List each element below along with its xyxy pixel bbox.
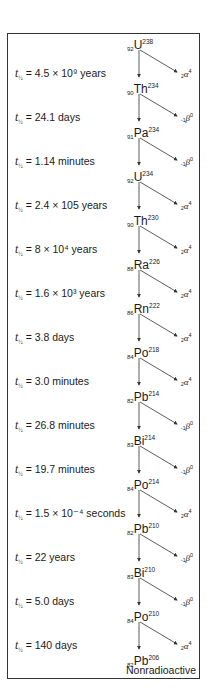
element-symbol: Pa: [134, 126, 149, 140]
emitted-particle: -1β0: [181, 418, 193, 433]
particle-mass: 0: [190, 552, 193, 558]
half-life-symbol: t½: [15, 463, 23, 475]
particle-mass: 0: [190, 420, 193, 426]
emitted-particle: 2α4: [181, 374, 192, 389]
half-life-label: t½ = 5.0 days: [15, 595, 74, 612]
particle-mass: 0: [190, 112, 193, 118]
atomic-number: 84: [127, 354, 134, 360]
emitted-particle: 2α4: [181, 198, 192, 213]
emitted-particle: -1β0: [181, 594, 193, 609]
nuclide: 83Bi214: [127, 432, 155, 451]
nuclide: 84Po214: [127, 476, 159, 495]
half-life-value: = 1.5 × 10⁻⁴ seconds: [26, 507, 126, 519]
atomic-number: 82: [127, 398, 134, 404]
half-life-symbol: t½: [15, 639, 23, 651]
nuclide: 90Th234: [127, 80, 159, 99]
half-life-value: = 3.0 minutes: [26, 375, 89, 387]
mass-number: 238: [142, 38, 153, 45]
mass-number: 226: [149, 258, 160, 265]
element-symbol: Rn: [134, 302, 149, 316]
atomic-number: 92: [127, 46, 134, 52]
half-life-label: t½ = 3.0 minutes: [15, 375, 89, 392]
nuclide: 88Ra226: [127, 256, 160, 275]
nuclide: 82Pb214: [127, 388, 159, 407]
nuclide: 84Po218: [127, 344, 159, 363]
emitted-particle: -1β0: [181, 110, 193, 125]
particle-mass: 4: [189, 288, 192, 294]
half-life-value: = 24.1 days: [26, 111, 81, 123]
element-symbol: Ra: [134, 258, 149, 272]
element-symbol: Th: [134, 82, 148, 96]
half-life-label: t½ = 19.7 minutes: [15, 463, 95, 480]
half-life-symbol: t½: [15, 243, 23, 255]
nuclide: 82Pb210: [127, 520, 159, 539]
emitted-particle: -1β0: [181, 154, 193, 169]
mass-number: 234: [148, 82, 159, 89]
element-symbol: Pb: [134, 522, 149, 536]
particle-mass: 0: [190, 156, 193, 162]
element-symbol: Bi: [134, 566, 145, 580]
atomic-number: 83: [127, 442, 134, 448]
half-life-label: t½ = 1.14 minutes: [15, 155, 95, 172]
atomic-number: 84: [127, 486, 134, 492]
half-life-symbol: t½: [15, 375, 23, 387]
emitted-particle: 2α4: [181, 66, 192, 81]
half-life-value: = 2.4 × 105 years: [26, 199, 108, 211]
half-life-value: = 3.8 days: [26, 331, 75, 343]
atomic-number: 91: [127, 134, 134, 140]
half-life-symbol: t½: [15, 199, 23, 211]
half-life-symbol: t½: [15, 507, 23, 519]
element-symbol: Po: [134, 478, 149, 492]
element-symbol: Bi: [134, 434, 145, 448]
half-life-value: = 1.14 minutes: [26, 155, 95, 167]
emitted-particle: -1β0: [181, 550, 193, 565]
atomic-number: 90: [127, 90, 134, 96]
half-life-value: = 140 days: [26, 639, 78, 651]
nuclide: 91Pa234: [127, 124, 159, 143]
mass-number: 234: [142, 170, 153, 177]
mass-number: 206: [148, 654, 159, 661]
half-life-label: t½ = 1.5 × 10⁻⁴ seconds: [15, 507, 125, 524]
element-symbol: Po: [134, 610, 149, 624]
half-life-symbol: t½: [15, 111, 23, 123]
half-life-symbol: t½: [15, 551, 23, 563]
half-life-value: = 8 × 10⁴ years: [26, 243, 98, 255]
nuclide: 84Po210: [127, 608, 159, 627]
half-life-value: = 26.8 minutes: [26, 419, 95, 431]
emitted-particle: 2α4: [181, 242, 192, 257]
emitted-particle: 2α4: [181, 506, 192, 521]
half-life-symbol: t½: [15, 155, 23, 167]
particle-mass: 4: [189, 332, 192, 338]
half-life-value: = 19.7 minutes: [26, 463, 95, 475]
mass-number: 210: [148, 522, 159, 529]
element-symbol: Po: [134, 346, 149, 360]
mass-number: 214: [144, 434, 155, 441]
half-life-label: t½ = 8 × 10⁴ years: [15, 243, 97, 260]
particle-mass: 4: [189, 68, 192, 74]
half-life-label: t½ = 3.8 days: [15, 331, 74, 348]
half-life-label: t½ = 140 days: [15, 639, 77, 656]
nuclide: 90Th230: [127, 212, 159, 231]
nuclide: 83Bi210: [127, 564, 155, 583]
atomic-number: 83: [127, 574, 134, 580]
nonradioactive-label: Nonradioactive: [126, 664, 196, 676]
half-life-value: = 1.6 × 10³ years: [26, 287, 105, 299]
mass-number: 218: [148, 346, 159, 353]
particle-mass: 0: [190, 596, 193, 602]
element-symbol: Th: [134, 214, 148, 228]
half-life-value: = 22 years: [26, 551, 75, 563]
mass-number: 222: [149, 302, 160, 309]
half-life-label: t½ = 22 years: [15, 551, 75, 568]
half-life-label: t½ = 4.5 × 10⁹ years: [15, 67, 106, 84]
emitted-particle: -1β0: [181, 462, 193, 477]
atomic-number: 88: [127, 266, 134, 272]
particle-mass: 4: [189, 376, 192, 382]
particle-mass: 4: [189, 640, 192, 646]
atomic-number: 84: [127, 618, 134, 624]
half-life-symbol: t½: [15, 331, 23, 343]
atomic-number: 86: [127, 310, 134, 316]
emitted-particle: 2α4: [181, 330, 192, 345]
half-life-label: t½ = 1.6 × 10³ years: [15, 287, 105, 304]
particle-mass: 4: [189, 200, 192, 206]
emitted-particle: 2α4: [181, 638, 192, 653]
